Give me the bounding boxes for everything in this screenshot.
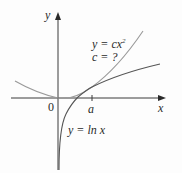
parabola-note: c = ?: [92, 51, 117, 63]
y-axis-label: y: [45, 9, 50, 21]
x-axis-label: x: [158, 102, 163, 114]
ln-curve: [59, 64, 160, 170]
graph-canvas: [0, 0, 182, 173]
origin-label: 0: [48, 101, 54, 113]
tick-label-a: a: [88, 103, 94, 115]
graph-figure: y x 0 a y = cx2 c = ? y = ln x: [0, 0, 182, 173]
ln-equation: y = ln x: [68, 124, 105, 136]
y-axis-arrow-icon: [55, 12, 61, 20]
parabola-equation: y = cx2: [92, 38, 126, 50]
